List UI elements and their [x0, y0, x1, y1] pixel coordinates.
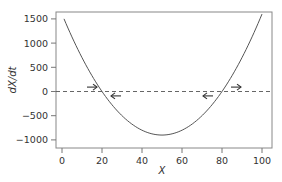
arrow-right-icon — [231, 84, 241, 90]
y-tick-label: 1500 — [24, 13, 48, 24]
x-axis: 020406080100 — [59, 148, 271, 166]
y-axis: 150010005000−500−1000 — [16, 13, 56, 145]
x-axis-label: X — [158, 165, 167, 176]
x-tick-label: 80 — [216, 155, 228, 166]
x-tick-label: 100 — [253, 155, 271, 166]
curve — [64, 14, 262, 135]
y-tick-label: 0 — [42, 86, 48, 97]
arrow-left-icon — [203, 93, 213, 99]
chart: 150010005000−500−1000 020406080100 X dX/… — [0, 0, 282, 182]
arrow-left-icon — [111, 93, 121, 99]
y-tick-label: 500 — [30, 62, 48, 73]
x-tick-label: 20 — [96, 155, 108, 166]
y-tick-label: 1000 — [24, 38, 48, 49]
y-axis-label: dX/dt — [7, 66, 18, 94]
arrow-right-icon — [87, 84, 97, 90]
plot-frame — [56, 12, 272, 148]
x-tick-label: 0 — [59, 155, 65, 166]
y-tick-label: −1000 — [16, 134, 48, 145]
y-tick-label: −500 — [22, 110, 48, 121]
x-tick-label: 40 — [136, 155, 148, 166]
x-tick-label: 60 — [176, 155, 188, 166]
